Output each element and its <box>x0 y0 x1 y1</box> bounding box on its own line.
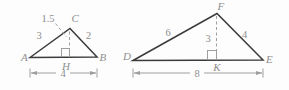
left-dim-arrow-left-icon <box>31 71 38 75</box>
left-altitude-label: 1.5 <box>41 13 54 24</box>
vertex-label-e: E <box>265 53 273 65</box>
left-dim-arrow-right-icon <box>90 71 97 75</box>
left-side-cb-label: 2 <box>86 30 91 41</box>
figure-svg: A B C H 1.5 3 2 4 <box>0 0 289 90</box>
right-dim-arrow-right-icon <box>256 71 263 75</box>
left-right-angle-mark <box>62 49 70 57</box>
vertex-label-b: B <box>100 51 107 63</box>
left-base-label: 4 <box>60 68 66 79</box>
vertex-label-d: D <box>122 50 131 62</box>
right-altitude-label: 3 <box>205 33 210 44</box>
left-side-ac-label: 3 <box>36 30 41 41</box>
left-triangle-group: A B C H 1.5 3 2 4 <box>20 12 107 79</box>
vertex-label-k: K <box>212 61 221 73</box>
right-triangle-group: D E F K 6 4 3 8 <box>122 0 273 79</box>
left-base-dimension: 4 <box>30 68 97 79</box>
right-side-df-label: 6 <box>165 27 170 38</box>
similar-triangles-figure: A B C H 1.5 3 2 4 <box>0 0 289 90</box>
vertex-label-f: F <box>217 0 225 12</box>
right-side-fe-label: 4 <box>242 29 248 40</box>
vertex-label-a: A <box>20 51 28 63</box>
right-right-angle-mark <box>208 51 217 60</box>
right-base-label: 8 <box>194 68 199 79</box>
right-dim-arrow-left-icon <box>134 71 141 75</box>
vertex-label-c: C <box>72 12 80 24</box>
right-base-dimension: 8 <box>133 68 263 79</box>
